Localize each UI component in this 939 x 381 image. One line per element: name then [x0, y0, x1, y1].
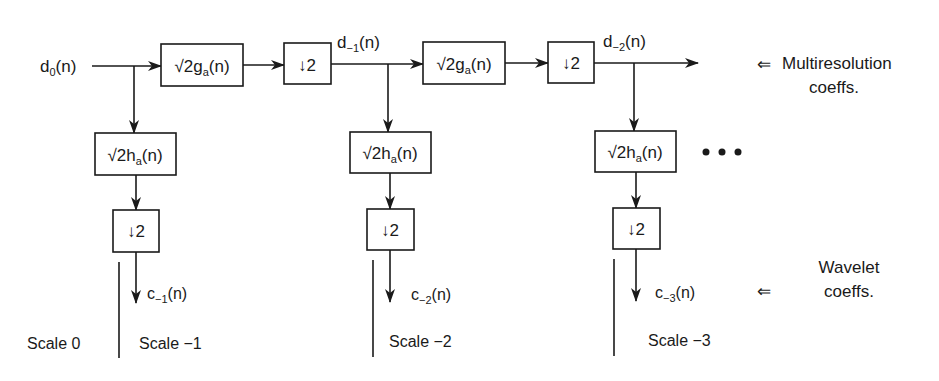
scale-label-3: Scale −3 [648, 332, 711, 349]
scale-label-0: Scale 0 [27, 335, 80, 352]
highpass-filter-label-1: √2ha(n) [107, 146, 162, 167]
downsample-label-high-3: ↓2 [627, 220, 645, 239]
input-signal-label: d0(n) [40, 57, 76, 78]
wavelet-legend-line1: Wavelet [819, 258, 880, 277]
multires-output-label-1: d−1(n) [337, 33, 380, 54]
downsample-label-low-1: ↓2 [298, 56, 316, 75]
wavelet-legend-line2: coeffs. [824, 282, 874, 301]
downsample-label-low-2: ↓2 [562, 54, 580, 73]
wavelet-output-label-3: c−3(n) [655, 284, 695, 304]
lowpass-filter-label-2: √2ga(n) [436, 55, 491, 76]
multires-output-label-2: d−2(n) [603, 32, 646, 53]
wavelet-output-label-1: c−1(n) [147, 285, 187, 305]
multires-legend-line2: coeffs. [809, 78, 859, 97]
highpass-filter-label-2: √2ha(n) [362, 144, 417, 165]
wavelet-decomposition-diagram: d0(n) √2ga(n) ↓2 d−1(n) √2ga(n) ↓2 d−2(n… [0, 0, 939, 381]
downsample-label-high-2: ↓2 [381, 221, 399, 240]
downsample-label-high-1: ↓2 [127, 222, 145, 241]
lowpass-filter-label-1: √2ga(n) [174, 57, 229, 78]
wavelet-output-label-2: c−2(n) [411, 286, 451, 306]
multires-legend-line1: Multiresolution [782, 54, 892, 73]
scale-label-1: Scale −1 [139, 335, 202, 352]
scale-label-2: Scale −2 [389, 333, 452, 350]
wavelet-legend-arrow: ⇐ [757, 282, 771, 301]
highpass-filter-label-3: √2ha(n) [607, 143, 662, 164]
multires-legend-arrow: ⇐ [757, 55, 771, 74]
ellipsis-dots [703, 149, 742, 156]
